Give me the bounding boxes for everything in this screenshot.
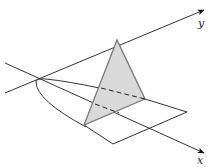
y-axis-label: y — [197, 17, 205, 30]
triangle-cross-section — [84, 40, 145, 125]
x-axis-label: x — [197, 154, 204, 167]
diagram-canvas: y x — [0, 0, 208, 167]
